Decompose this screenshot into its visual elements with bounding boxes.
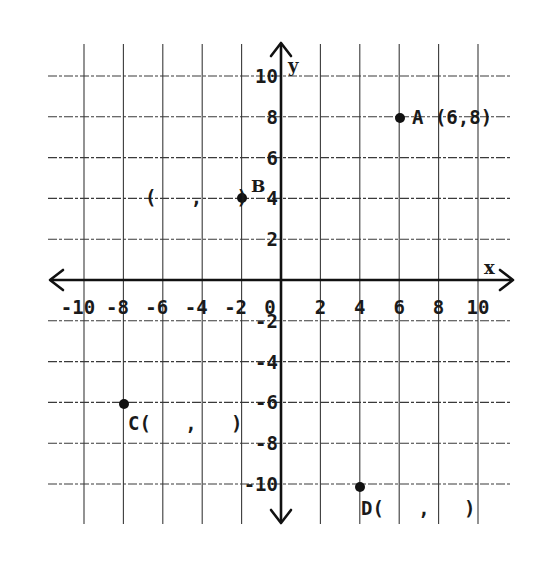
point-a [395, 113, 405, 123]
y-tick-label: -4 [255, 351, 278, 373]
x-tick-label: -8 [106, 296, 129, 318]
point-d-label: D( , ) [361, 497, 475, 519]
point-d [355, 482, 365, 492]
x-axis-label: x [484, 257, 495, 278]
y-tick-label: 6 [267, 147, 278, 169]
y-tick-label: -8 [255, 432, 278, 454]
x-tick-label: -6 [145, 296, 168, 318]
x-tick-label: 10 [467, 296, 490, 318]
point-b-letter: B [251, 176, 265, 196]
x-tick-label: 4 [354, 296, 365, 318]
x-tick-label: -4 [185, 296, 208, 318]
x-tick-label: -10 [61, 296, 95, 318]
y-axis-label: y [287, 55, 299, 76]
point-c [119, 399, 129, 409]
point-a-label: A (6,8) [412, 106, 492, 128]
point-b-blank-coordinates: ( , ) [145, 186, 248, 208]
y-tick-label: -6 [255, 391, 278, 413]
x-tick-label: 8 [433, 296, 444, 318]
x-tick-label: 6 [393, 296, 404, 318]
x-tick-label: 2 [315, 296, 326, 318]
y-tick-label: 4 [267, 187, 278, 209]
y-tick-label: 8 [267, 106, 278, 128]
y-tick-label: -10 [244, 473, 278, 495]
y-tick-label: 2 [267, 228, 278, 250]
y-tick-label: 10 [255, 65, 278, 87]
x-tick-label: -2 [224, 296, 247, 318]
point-c-label: C( , ) [128, 412, 242, 434]
coordinate-plane: x y -10-8-6-4-20246810108642-2-4-6-8-10 … [0, 0, 541, 570]
y-tick-label: -2 [255, 310, 278, 332]
